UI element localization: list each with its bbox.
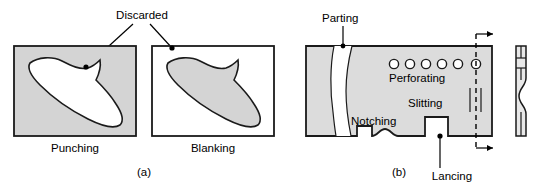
punching-caption: Punching bbox=[51, 142, 99, 154]
cutting-operations-figure: Discarded Punching Blanking bbox=[0, 0, 547, 191]
slitting-label: Slitting bbox=[408, 97, 443, 109]
figure-container: Discarded Punching Blanking bbox=[0, 0, 547, 191]
blanking-illustration: Blanking bbox=[152, 45, 274, 154]
feed-arrow-top bbox=[476, 31, 493, 37]
punching-illustration: Punching bbox=[14, 46, 136, 154]
blanking-caption: Blanking bbox=[191, 142, 235, 154]
feed-arrow-bottom-head bbox=[487, 145, 493, 151]
lancing-dot bbox=[437, 133, 442, 138]
perforating-hole bbox=[453, 59, 462, 68]
punching-discarded-dot bbox=[83, 64, 88, 69]
perforating-label: Perforating bbox=[389, 72, 445, 84]
panel-b: Parting Perforating Slitting Notching bbox=[306, 12, 526, 182]
notching-label: Notching bbox=[351, 115, 396, 127]
discarded-leader-right bbox=[150, 24, 172, 48]
panel-a: Discarded Punching Blanking bbox=[14, 9, 274, 178]
perforating-hole bbox=[389, 59, 398, 68]
perforating-hole bbox=[421, 59, 430, 68]
lancing-label: Lancing bbox=[432, 170, 472, 182]
parting-label: Parting bbox=[322, 12, 358, 24]
blanking-discarded-dot bbox=[169, 45, 174, 50]
perforating-hole bbox=[437, 59, 446, 68]
strip-side-view bbox=[516, 46, 526, 136]
panel-b-caption: (b) bbox=[392, 166, 406, 178]
parting-dot bbox=[341, 44, 346, 49]
perforating-hole bbox=[405, 59, 414, 68]
feed-arrow-top-head bbox=[487, 31, 493, 37]
discarded-label: Discarded bbox=[116, 9, 168, 21]
panel-a-caption: (a) bbox=[137, 166, 151, 178]
feed-arrow-bottom bbox=[476, 145, 493, 151]
